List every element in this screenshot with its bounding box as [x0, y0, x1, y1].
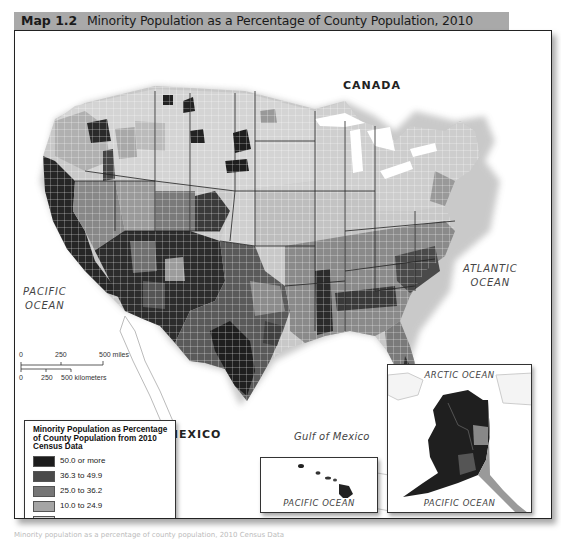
scale-km-500: 500 kilometers — [61, 374, 107, 381]
legend-label: 10.0 to 24.9 — [60, 501, 102, 510]
atlantic-line1: ATLANTIC — [463, 262, 518, 276]
alaska-pacific-label: PACIFIC OCEAN — [388, 498, 531, 508]
label-pacific-ocean: PACIFIC OCEAN — [23, 285, 67, 313]
scale-bar: 0 250 500 miles 0 250 500 kilometers — [19, 351, 149, 395]
legend-label: Less than 10.0 — [60, 516, 112, 519]
scale-km-250: 250 — [41, 374, 53, 381]
hawaii-inset: PACIFIC OCEAN — [260, 457, 378, 513]
alaska-map — [388, 365, 532, 513]
legend-swatch — [33, 501, 55, 512]
map-frame: CANADA MEXICO PACIFIC OCEAN ATLANTIC OCE… — [14, 30, 552, 519]
legend-swatch — [33, 486, 55, 497]
legend-label: 36.3 to 49.9 — [60, 471, 102, 480]
map-title: Minority Population as a Percentage of C… — [87, 13, 473, 28]
figure-caption: Minority population as a percentage of c… — [14, 531, 284, 539]
legend-title: Minority Population as Percentage of Cou… — [33, 426, 173, 452]
scale-bar-lines — [19, 360, 129, 374]
alaska-inset: ARCTIC OCEAN PACIFIC OCEAN — [387, 364, 532, 513]
pacific-line2: OCEAN — [23, 299, 67, 313]
hawaii-ocean-label: PACIFIC OCEAN — [261, 498, 377, 508]
scale-km-0: 0 — [19, 374, 23, 381]
legend-label: 25.0 to 36.2 — [60, 486, 102, 495]
scale-mi-250: 250 — [55, 351, 67, 358]
legend-label: 50.0 or more — [60, 456, 105, 465]
legend-swatch — [33, 471, 55, 482]
legend-swatch — [33, 456, 55, 467]
atlantic-line2: OCEAN — [463, 276, 518, 290]
map-title-bar: Map 1.2 Minority Population as a Percent… — [14, 12, 509, 30]
scale-mi-0: 0 — [19, 351, 23, 358]
label-atlantic-ocean: ATLANTIC OCEAN — [463, 262, 518, 290]
label-gulf-of-mexico: Gulf of Mexico — [294, 430, 370, 444]
map-number: Map 1.2 — [21, 13, 77, 28]
label-canada: CANADA — [343, 79, 401, 92]
scale-mi-500: 500 miles — [99, 351, 129, 358]
hawaii-islands — [261, 458, 378, 498]
legend: Minority Population as Percentage of Cou… — [24, 420, 176, 519]
pacific-line1: PACIFIC — [23, 285, 67, 299]
legend-swatch — [33, 516, 55, 519]
